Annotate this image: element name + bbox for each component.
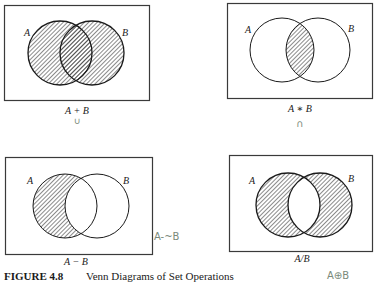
set-a-label: A bbox=[248, 175, 256, 186]
venn-figure: A B A + B ∪ A B A ∗ B ∩ A B A − B A-~B A bbox=[0, 0, 376, 282]
operation-label: A ∗ B bbox=[287, 103, 312, 114]
operation-label: A + B bbox=[64, 105, 89, 116]
set-a-label: A bbox=[26, 175, 34, 186]
shaded-region-a-only bbox=[0, 150, 200, 260]
shaded-region-union bbox=[28, 21, 124, 85]
diagram-difference: A B A − B A-~B bbox=[0, 150, 200, 267]
caption-title: Venn Diagrams of Set Operations bbox=[86, 270, 234, 282]
set-b-label: B bbox=[123, 175, 129, 186]
caption-label: FIGURE 4.8 bbox=[4, 270, 64, 282]
figure-caption: FIGURE 4.8 Venn Diagrams of Set Operatio… bbox=[4, 270, 234, 282]
handwritten-note: ∪ bbox=[74, 116, 81, 126]
set-b-label: B bbox=[348, 23, 354, 34]
operation-label: A/B bbox=[294, 253, 310, 264]
diagram-union: A B A + B ∪ bbox=[5, 6, 150, 127]
set-b-label: B bbox=[348, 173, 354, 184]
set-a-label: A bbox=[244, 24, 252, 35]
operation-label: A − B bbox=[63, 256, 88, 267]
set-a-label: A bbox=[23, 27, 31, 38]
diagram-intersection: A B A ∗ B ∩ bbox=[228, 4, 373, 130]
handwritten-note: ∩ bbox=[296, 118, 303, 129]
set-b-label: B bbox=[122, 27, 128, 38]
handwritten-note: A-~B bbox=[154, 231, 180, 242]
diagram-symmetric-difference: A B A/B A⊕B bbox=[220, 150, 376, 281]
handwritten-note: A⊕B bbox=[327, 270, 349, 281]
